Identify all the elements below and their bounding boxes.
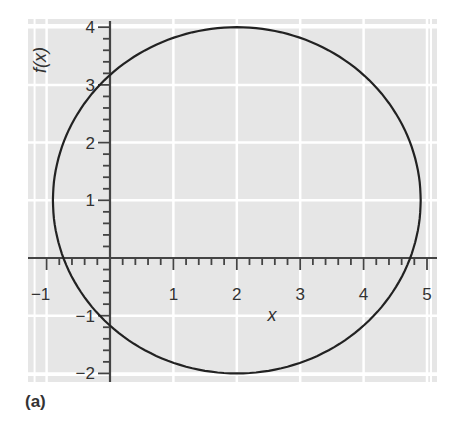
svg-text:1: 1 (169, 285, 178, 304)
svg-text:4: 4 (359, 285, 368, 304)
svg-text:−2: −2 (76, 364, 95, 383)
svg-text:2: 2 (232, 285, 241, 304)
svg-text:3: 3 (295, 285, 304, 304)
svg-text:−1: −1 (31, 285, 50, 304)
svg-text:−1: −1 (76, 307, 95, 326)
x-axis-label: x (267, 305, 278, 325)
svg-text:2: 2 (86, 134, 95, 153)
svg-text:1: 1 (86, 191, 95, 210)
svg-text:5: 5 (422, 285, 431, 304)
chart: −1123454321−1−2 x f(x) (0, 0, 457, 423)
svg-text:4: 4 (86, 18, 95, 37)
panel-label: (a) (25, 392, 46, 412)
y-axis-label: f(x) (30, 47, 50, 73)
